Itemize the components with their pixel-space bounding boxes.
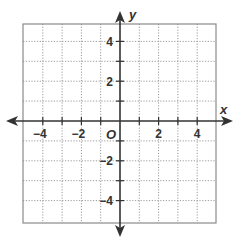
y-axis-label: y (128, 7, 137, 22)
x-tick-label: −2 (72, 127, 86, 141)
y-tick-label: 2 (106, 75, 113, 89)
y-tick-label: −4 (99, 194, 113, 208)
y-tick-label: −2 (99, 154, 113, 168)
x-tick-labels: −4−224 (33, 127, 201, 141)
x-tick-label: 2 (155, 127, 162, 141)
coordinate-plane: y x O −4−224 42−2−4 (0, 0, 239, 242)
x-tick-label: −4 (33, 127, 47, 141)
y-tick-label: 4 (106, 35, 113, 49)
x-tick-label: 4 (194, 127, 201, 141)
origin-label: O (106, 127, 116, 142)
x-axis-label: x (219, 102, 228, 117)
